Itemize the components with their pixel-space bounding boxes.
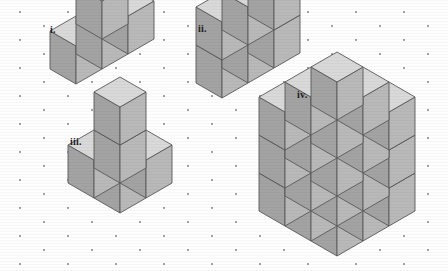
figure-i-solid — [50, 0, 154, 84]
figure-iv-solid — [259, 52, 415, 256]
figure-label-iii: iii. — [70, 136, 82, 147]
figure-label-iv: iv. — [297, 89, 307, 100]
figure-label-i: i. — [50, 24, 56, 35]
cube-figures-canvas — [0, 0, 448, 271]
figure-label-ii: ii. — [198, 23, 207, 34]
figure-sheet: i. ii. iii. iv. — [0, 0, 448, 271]
figure-iii-solid — [68, 77, 172, 213]
